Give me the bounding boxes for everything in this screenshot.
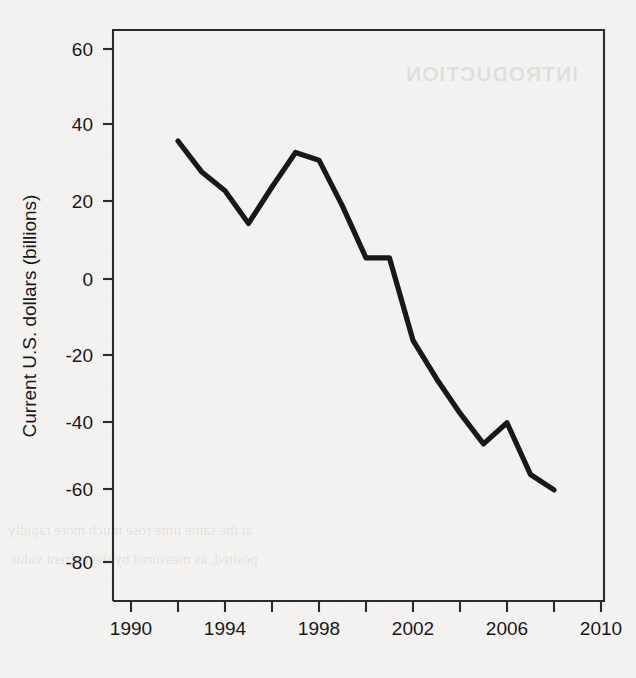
y-tick-label-20: 20: [72, 191, 93, 212]
y-tick-label-0: 0: [82, 269, 93, 290]
plot-frame: [113, 30, 604, 601]
x-tick-label-1990: 1990: [110, 618, 152, 639]
x-tick-label-1998: 1998: [298, 618, 340, 639]
x-tick-label-1994: 1994: [204, 618, 247, 639]
data-series-line: [178, 141, 554, 490]
y-axis-title: Current U.S. dollars (billions): [19, 195, 40, 438]
x-axis-tick-labels: 1990 1994 1998 2002 2006 2010: [110, 618, 622, 639]
y-axis-tick-labels: 60 40 20 0 -20 -40 -60 -80: [66, 39, 93, 573]
y-tick-label-minus20: -20: [66, 345, 93, 366]
y-tick-label-minus60: -60: [66, 479, 93, 500]
y-axis-ticks: [103, 49, 113, 562]
y-tick-label-40: 40: [72, 114, 93, 135]
x-axis-ticks: [131, 601, 601, 612]
line-chart: 60 40 20 0 -20 -40 -60 -80 Current U.S. …: [0, 0, 636, 678]
y-tick-label-60: 60: [72, 39, 93, 60]
x-tick-label-2002: 2002: [392, 618, 434, 639]
x-tick-label-2010: 2010: [580, 618, 622, 639]
y-tick-label-minus40: -40: [66, 412, 93, 433]
y-tick-label-minus80: -80: [66, 552, 93, 573]
x-tick-label-2006: 2006: [486, 618, 528, 639]
